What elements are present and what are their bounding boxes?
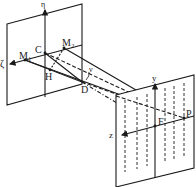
- label-nu: ν: [89, 66, 93, 74]
- label-M1: M₁: [19, 51, 31, 61]
- diagram-lines: [0, 0, 196, 187]
- label-eta: η: [41, 1, 45, 9]
- label-C: C: [35, 45, 42, 55]
- label-y: y: [152, 74, 157, 83]
- label-z: z: [109, 131, 113, 140]
- label-H: H: [45, 72, 52, 82]
- label-D: D: [81, 85, 88, 95]
- label-F: F: [158, 117, 164, 127]
- label-M2: M₂: [62, 38, 74, 48]
- label-zeta: ζ: [0, 59, 4, 69]
- label-P: P: [186, 109, 192, 119]
- diagram: η ζ M₁ M₂ C H D ν y z F P: [0, 0, 196, 187]
